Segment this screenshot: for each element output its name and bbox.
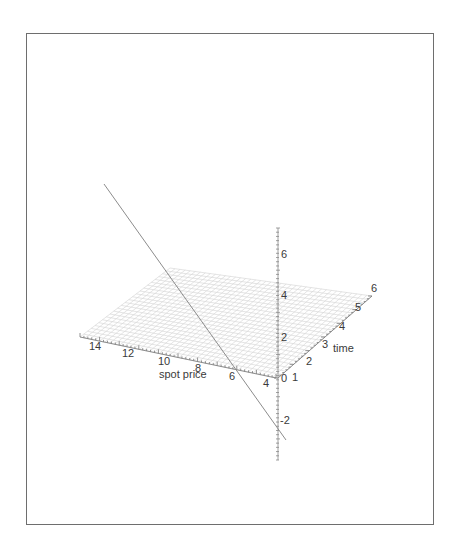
x-tick-14: 14 <box>89 340 101 352</box>
z-tick-neg2: -2 <box>280 414 290 426</box>
y-tick-6: 6 <box>371 282 377 294</box>
y-tick-5: 5 <box>355 301 361 313</box>
x-tick-6: 6 <box>229 370 235 382</box>
y-tick-1: 1 <box>292 371 298 383</box>
surface-mesh <box>80 268 372 378</box>
x-tick-10: 10 <box>158 355 170 367</box>
z-tick-0: 0 <box>281 372 287 384</box>
x-tick-4: 4 <box>263 377 269 389</box>
plot-3d: 14 12 10 8 6 4 spot price 1 2 3 4 5 6 ti… <box>0 0 457 557</box>
y-tick-3: 3 <box>322 338 328 350</box>
y-tick-2: 2 <box>306 355 312 367</box>
z-tick-2: 2 <box>281 331 287 343</box>
y-tick-4: 4 <box>339 320 345 332</box>
x-axis-label: spot price <box>159 368 207 380</box>
z-tick-4: 4 <box>281 289 287 301</box>
x-tick-12: 12 <box>122 347 134 359</box>
z-tick-6: 6 <box>281 248 287 260</box>
y-axis-label: time <box>333 342 354 354</box>
